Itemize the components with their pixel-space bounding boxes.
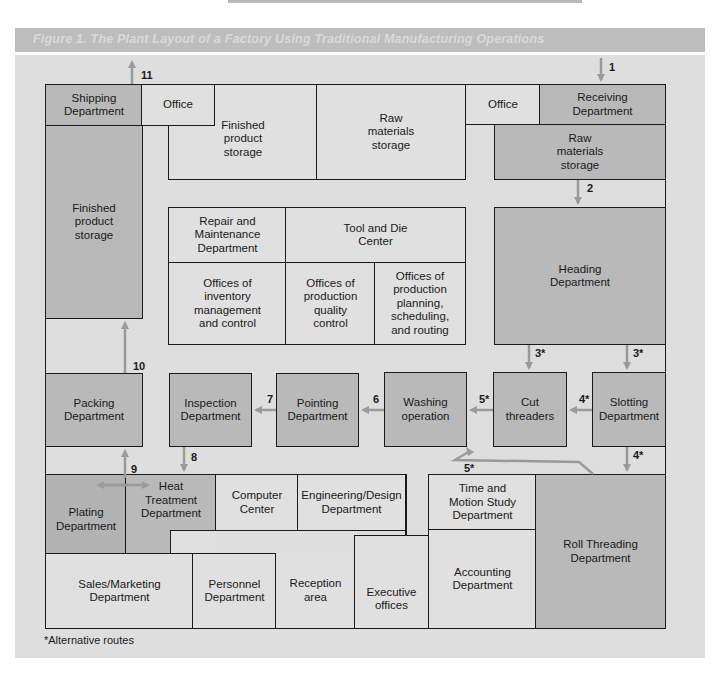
room-engineering: Engineering/Design Department — [297, 474, 406, 531]
figure-title-bar: Figure 1. The Plant Layout of a Factory … — [15, 28, 705, 52]
room-pointing: Pointing Department — [276, 373, 359, 447]
room-label: Engineering/Design Department — [301, 489, 401, 516]
flow-label-4a: 4* — [579, 393, 589, 405]
room-label: Computer Center — [232, 489, 283, 516]
room-label: Plating Department — [56, 496, 116, 533]
room-accounting: Accounting Department — [428, 529, 537, 629]
flow-label-4b: 4* — [633, 449, 643, 461]
room-tool-die: Tool and Die Center — [285, 207, 466, 263]
room-personnel: Personnel Department — [192, 553, 277, 629]
room-label: Receiving Department — [572, 91, 632, 118]
room-office-right: Office — [465, 84, 541, 125]
room-label: Slotting Department — [599, 396, 659, 423]
room-inspection: Inspection Department — [169, 373, 252, 447]
room-label: Packing Department — [64, 397, 124, 424]
room-packing: Packing Department — [45, 373, 143, 447]
figure-title: Figure 1. The Plant Layout of a Factory … — [33, 32, 544, 46]
flow-label-11: 11 — [141, 69, 153, 81]
room-label: Heat Treatment Department — [141, 475, 201, 521]
room-label: Offices of inventory management and cont… — [194, 277, 261, 331]
room-label: Executive offices — [367, 552, 417, 613]
corridor-notch — [170, 530, 217, 554]
room-label: Pointing Department — [287, 397, 347, 424]
room-raw-storage-right: Raw materials storage — [494, 124, 666, 180]
room-label: Personnel Department — [204, 578, 264, 605]
room-office-left-overlay: Office — [141, 84, 215, 126]
room-label: Finished product storage — [221, 105, 264, 160]
room-plating: Plating Department — [45, 474, 127, 555]
room-inventory-offices: Offices of inventory management and cont… — [168, 262, 287, 345]
room-shipping: Shipping Department — [45, 84, 143, 126]
room-slotting: Slotting Department — [592, 372, 666, 447]
room-label: Office — [488, 98, 518, 112]
footnote: *Alternative routes — [44, 634, 134, 646]
room-label: Heading Department — [550, 263, 610, 290]
room-repair: Repair and Maintenance Department — [168, 207, 287, 263]
room-quality-offices: Offices of production quality control — [285, 262, 376, 345]
flow-label-3a: 3* — [535, 347, 545, 359]
wall-segment — [405, 474, 407, 536]
room-receiving: Receiving Department — [539, 84, 666, 125]
flow-label-5a: 5* — [479, 393, 489, 405]
room-label: Inspection Department — [180, 397, 240, 424]
room-label: Cut threaders — [506, 396, 555, 423]
room-computer-center: Computer Center — [215, 474, 299, 531]
room-label: Offices of production planning, scheduli… — [391, 270, 449, 338]
room-label: Offices of production quality control — [304, 277, 358, 331]
room-cut-threaders: Cut threaders — [493, 372, 567, 447]
flow-label-8: 8 — [191, 451, 197, 463]
room-label: Finished product storage — [72, 202, 115, 243]
room-label: Sales/Marketing Department — [78, 578, 160, 605]
room-washing: Washing operation — [384, 372, 467, 447]
room-label: Office — [163, 98, 193, 112]
flow-label-7: 7 — [267, 393, 273, 405]
room-sales: Sales/Marketing Department — [45, 553, 194, 629]
flow-label-2: 2 — [587, 182, 593, 194]
room-time-motion: Time and Motion Study Department — [428, 474, 537, 531]
room-raw-storage-top: Raw materials storage — [316, 84, 466, 180]
room-reception: Reception area — [275, 553, 356, 629]
room-label: Repair and Maintenance Department — [195, 215, 261, 256]
room-label: Shipping Department — [64, 92, 124, 119]
room-label: Time and Motion Study Department — [449, 482, 516, 523]
flow-label-1: 1 — [609, 61, 615, 73]
room-heading: Heading Department — [494, 207, 666, 345]
room-finished-storage-left: Finished product storage — [45, 125, 143, 319]
room-label: Washing operation — [402, 396, 450, 423]
flow-label-5b: 5* — [464, 462, 474, 474]
room-label: Raw materials storage — [368, 112, 415, 153]
room-planning-offices: Offices of production planning, scheduli… — [374, 262, 466, 345]
flow-label-10: 10 — [133, 360, 145, 372]
room-label: Accounting Department — [452, 566, 512, 593]
room-label: Reception area — [290, 577, 342, 604]
room-roll-threading: Roll Threading Department — [535, 474, 666, 629]
room-label: Tool and Die Center — [344, 222, 408, 249]
top-rule — [228, 0, 582, 3]
room-executive: Executive offices — [354, 535, 429, 629]
flow-label-3b: 3* — [633, 347, 643, 359]
room-label: Roll Threading Department — [563, 538, 638, 565]
flow-label-6: 6 — [373, 393, 379, 405]
flow-label-9: 9 — [131, 463, 137, 475]
room-label: Raw materials storage — [557, 132, 604, 173]
